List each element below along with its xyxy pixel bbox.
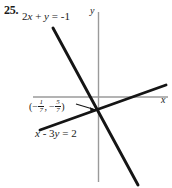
line-2x-plus-y-equals-neg1 (53, 28, 138, 185)
eq-top-variable-y: y (44, 10, 49, 22)
equation-label-top: 2x + y = -1 (22, 11, 70, 22)
eq-top-variable-x: x (28, 10, 33, 22)
x-axis-label: x (161, 95, 165, 105)
point-y-denominator: 7 (55, 106, 61, 114)
eq-bottom-equals-sign: = (62, 127, 68, 139)
point-x-sign: − (32, 102, 38, 112)
intersection-point-label: ( − 1 7 , − 5 7 ) (29, 99, 64, 115)
eq-top-plus-sign: + (35, 10, 41, 22)
equation-label-bottom: x - 3y = 2 (35, 128, 77, 139)
point-x-denominator: 7 (38, 106, 44, 114)
eq-top-right-hand-side: -1 (61, 10, 70, 22)
graph-figure: 25. 2x + y = -1 x - 3y = 2 ( − 1 7 , − 5… (0, 0, 172, 188)
point-x-fraction: 1 7 (38, 99, 44, 115)
eq-bottom-variable-x: x (35, 127, 40, 139)
eq-bottom-variable-y: y (55, 127, 60, 139)
eq-bottom-minus-sign: - (43, 127, 47, 139)
eq-bottom-right-hand-side: 2 (71, 127, 77, 139)
point-comma: , (44, 102, 47, 112)
eq-top-equals-sign: = (52, 10, 58, 22)
coordinate-plane (0, 0, 172, 188)
point-close-paren: ) (61, 102, 64, 112)
point-y-numerator: 5 (55, 99, 61, 106)
point-x-numerator: 1 (38, 99, 44, 106)
point-y-fraction: 5 7 (55, 99, 61, 115)
y-axis-label: y (90, 6, 94, 16)
problem-number: 25. (4, 4, 18, 16)
point-y-sign: − (49, 102, 55, 112)
